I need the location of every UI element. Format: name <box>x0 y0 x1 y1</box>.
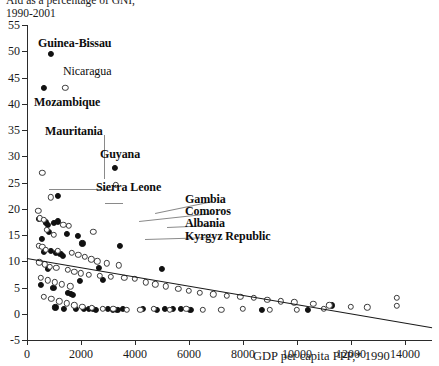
x-tick-label: 4000 <box>123 347 147 362</box>
data-point <box>103 260 109 266</box>
x-tick <box>81 340 82 345</box>
data-point <box>117 242 123 248</box>
data-point <box>86 272 92 278</box>
y-tick-label: 25 <box>8 182 20 183</box>
data-point <box>364 304 370 310</box>
data-point <box>267 306 273 312</box>
data-point <box>186 287 192 293</box>
data-point <box>116 262 122 268</box>
y-tick <box>22 104 27 105</box>
y-tick <box>22 314 27 315</box>
scatter-chart: Aid as a percentage of GNI, 1990-2001 -5… <box>0 0 439 366</box>
data-point <box>53 265 59 271</box>
data-point <box>44 277 50 283</box>
data-point <box>197 290 203 296</box>
data-point <box>41 294 47 300</box>
y-tick <box>22 78 27 79</box>
data-point <box>51 232 57 238</box>
annotation-kyrgyz-republic: Kyrgyz Republic <box>185 229 271 244</box>
y-tick <box>22 25 27 26</box>
x-tick-label: 0 <box>24 347 30 362</box>
data-point <box>143 279 149 285</box>
x-tick <box>405 340 406 345</box>
y-tick-label: 30 <box>8 156 20 157</box>
x-tick <box>243 340 244 345</box>
chart-title: Aid as a percentage of GNI, 1990-2001 <box>6 0 336 20</box>
y-tick <box>22 261 27 262</box>
annotation-sierra-leone: Sierra Leone <box>96 180 161 195</box>
y-tick-label: 10 <box>8 261 20 262</box>
data-point <box>35 208 41 214</box>
x-tick-label: 8000 <box>231 347 255 362</box>
data-point <box>167 306 173 312</box>
annotation-guyana: Guyana <box>100 147 140 162</box>
data-point <box>259 306 265 312</box>
data-point <box>71 269 77 275</box>
x-tick <box>297 340 298 345</box>
data-point <box>62 85 68 91</box>
y-tick <box>22 51 27 52</box>
data-point <box>75 252 81 258</box>
chart-title-line1: Aid as a percentage of GNI, <box>6 0 336 7</box>
data-point <box>67 283 73 289</box>
data-point <box>48 296 54 302</box>
y-tick-label: 45 <box>8 77 20 78</box>
y-tick <box>22 183 27 184</box>
y-tick-label: -5 <box>10 340 20 341</box>
data-point <box>51 279 57 285</box>
data-point <box>218 307 224 313</box>
x-tick-label: 6000 <box>177 347 201 362</box>
y-tick-label: 20 <box>8 208 20 209</box>
data-point <box>394 303 400 309</box>
x-tick-label: 2000 <box>69 347 93 362</box>
data-point <box>210 291 216 297</box>
data-point <box>56 298 62 304</box>
data-point <box>107 274 113 280</box>
data-point <box>64 231 70 237</box>
data-point <box>48 194 54 200</box>
data-point <box>38 275 44 281</box>
data-point <box>159 266 165 272</box>
data-point <box>305 307 311 313</box>
y-tick-label: 55 <box>8 25 20 26</box>
data-point <box>41 85 47 91</box>
leader-line <box>105 203 123 204</box>
y-tick <box>22 156 27 157</box>
x-tick <box>189 340 190 345</box>
y-tick <box>22 130 27 131</box>
x-tick <box>351 340 352 345</box>
x-tick <box>27 340 28 345</box>
data-point <box>152 281 158 287</box>
data-point <box>48 51 54 57</box>
data-point <box>348 304 354 310</box>
data-point <box>70 292 76 298</box>
data-point <box>59 281 65 287</box>
data-point <box>78 270 84 276</box>
data-point <box>240 306 246 312</box>
data-point <box>163 283 169 289</box>
x-axis-line <box>27 340 432 341</box>
data-point <box>61 305 67 311</box>
data-point <box>68 250 74 256</box>
x-tick <box>135 340 136 345</box>
data-point <box>75 232 81 238</box>
data-point <box>199 306 205 312</box>
data-point <box>94 258 100 264</box>
y-axis-line <box>27 25 28 340</box>
data-point <box>39 170 45 176</box>
annotation-nicaragua: Nicaragua <box>63 64 111 79</box>
data-point <box>137 307 143 313</box>
y-tick-label: 50 <box>8 51 20 52</box>
annotation-mauritania: Mauritania <box>45 124 103 139</box>
data-point <box>60 253 66 259</box>
data-point <box>64 300 70 306</box>
data-point <box>64 266 70 272</box>
data-point <box>124 306 130 312</box>
y-tick-label: 0 <box>14 313 20 314</box>
y-tick-label: 40 <box>8 103 20 104</box>
data-point <box>77 278 83 284</box>
chart-title-line2: 1990-2001 <box>6 7 336 20</box>
data-point <box>52 304 58 310</box>
y-tick-label: 35 <box>8 130 20 131</box>
y-tick <box>22 209 27 210</box>
